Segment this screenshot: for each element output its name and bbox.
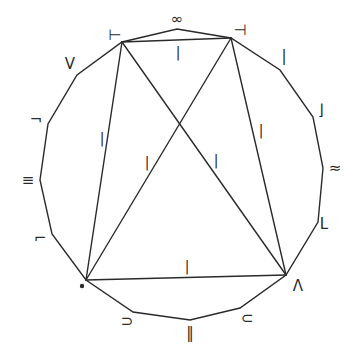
vertex-label-top: ∞ [171,10,184,28]
edge-label: | [176,44,181,61]
vertex-label-r2: ⌋ [318,101,324,119]
vertex-dot-marker [80,284,84,288]
vertex-label-BR: Λ [293,277,304,295]
vertex-label-TR: ⊣ [233,21,246,39]
interior-edge-TL-BL [86,42,122,280]
vertex-label-b2: ⊃ [121,312,134,330]
outer-polygon [40,29,323,320]
vertex-label-l4: V [65,55,76,73]
edge-label: | [185,258,190,275]
interior-edge-BL-BR [86,275,286,280]
vertex-label-r3: ≈ [329,159,342,177]
edge-labels: |||||| [100,44,264,275]
polygon-diagram: |||||| ∞⊣|⌋≈LΛ⊂‖⊃⌐≡¬V⊢ [0,0,363,352]
edge-label: | [214,152,219,169]
vertex-label-TL: ⊢ [108,26,121,44]
vertex-label-bot: ‖ [186,324,194,342]
edge-label: | [259,122,264,139]
edge-label: | [100,130,105,147]
vertex-label-l2: ≡ [22,171,35,189]
vertex-label-r4: L [320,215,329,233]
vertex-label-b1: ⊂ [241,309,254,327]
vertex-label-r1: | [281,47,286,65]
edge-label: | [145,154,150,171]
interior-edge-BL-TR [86,38,231,280]
vertex-labels: ∞⊣|⌋≈LΛ⊂‖⊃⌐≡¬V⊢ [22,10,342,342]
interior-edges [86,38,286,280]
vertex-label-l3: ¬ [30,111,43,129]
vertex-label-l1: ⌐ [34,229,47,247]
interior-edge-TR-BR [231,38,286,275]
